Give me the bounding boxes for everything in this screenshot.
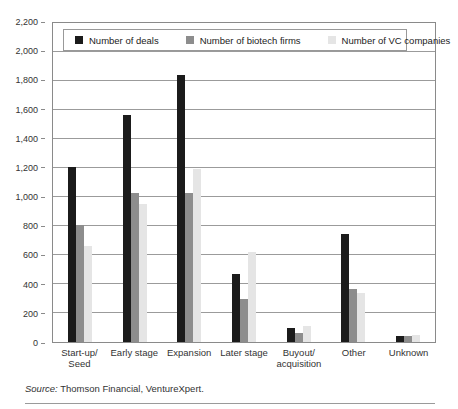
legend-item: Number of biotech firms [186,35,301,46]
bar-group [53,23,108,342]
bar [131,193,139,342]
y-tick-mark [41,167,45,168]
legend-swatch-icon [75,36,83,44]
legend: Number of dealsNumber of biotech firmsNu… [63,29,407,51]
y-tick-label: 1,000 [0,192,38,202]
bar-group [326,23,381,342]
figure: 02004006008001,0001,2001,4001,6001,8002,… [0,0,458,409]
bar [177,75,185,342]
y-tick-mark [41,22,45,23]
y-tick-label: 400 [0,280,38,290]
y-tick-label: 1,800 [0,75,38,85]
x-category-label: Buyout/ acquisition [271,347,326,369]
legend-label: Number of VC companies [342,35,451,46]
plot-area: Number of dealsNumber of biotech firmsNu… [52,22,436,343]
bar [349,289,357,342]
y-axis: 02004006008001,0001,2001,4001,6001,8002,… [0,22,46,343]
y-tick-label: 2,000 [0,46,38,56]
y-tick-mark [41,197,45,198]
bar [357,293,365,342]
bar [139,204,147,342]
bar [287,328,295,342]
bar [303,326,311,342]
bar [185,193,193,342]
bar [76,225,84,342]
y-tick-mark [41,80,45,81]
y-tick-label: 0 [0,338,38,348]
x-category-label: Other [326,347,381,369]
y-tick-mark [41,226,45,227]
source-line: Source: Thomson Financial, VentureXpert. [25,383,204,394]
bar [68,167,76,342]
bar-group [162,23,217,342]
legend-label: Number of deals [89,35,159,46]
y-tick-mark [41,109,45,110]
y-tick-label: 1,200 [0,163,38,173]
y-tick-label: 1,600 [0,105,38,115]
bar-group [217,23,272,342]
bar [341,234,349,342]
y-tick-label: 2,200 [0,17,38,27]
x-category-label: Unknown [381,347,436,369]
y-tick-mark [41,313,45,314]
bar-group [271,23,326,342]
bar-groups [53,23,435,342]
y-tick-mark [41,255,45,256]
source-text: Thomson Financial, VentureXpert. [58,383,204,394]
legend-item: Number of VC companies [328,35,451,46]
bar [295,333,303,342]
y-tick-label: 1,400 [0,134,38,144]
bar [232,274,240,342]
y-tick-mark [41,138,45,139]
y-tick-label: 200 [0,309,38,319]
x-category-label: Start-up/ Seed [52,347,107,369]
y-tick-label: 800 [0,221,38,231]
bottom-rule [25,403,435,404]
legend-swatch-icon [328,36,336,44]
legend-label: Number of biotech firms [200,35,301,46]
y-tick-label: 600 [0,250,38,260]
bar [404,336,412,342]
x-axis: Start-up/ SeedEarly stageExpansionLater … [52,347,436,369]
y-tick-mark [41,343,45,344]
x-category-label: Expansion [162,347,217,369]
bar [193,169,201,342]
bar [123,115,131,342]
bar [396,336,404,342]
y-tick-mark [41,51,45,52]
bar [240,299,248,343]
bar [84,246,92,342]
x-category-label: Later stage [217,347,272,369]
bar [248,252,256,342]
legend-swatch-icon [186,36,194,44]
y-tick-mark [41,284,45,285]
bar-group [380,23,435,342]
source-label: Source: [25,383,58,394]
legend-item: Number of deals [75,35,159,46]
bar-group [108,23,163,342]
x-category-label: Early stage [107,347,162,369]
bar [412,335,420,342]
